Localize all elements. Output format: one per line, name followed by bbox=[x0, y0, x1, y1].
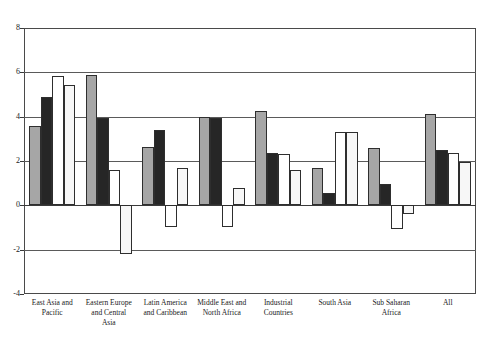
bar bbox=[323, 193, 335, 205]
bar bbox=[233, 188, 245, 206]
bar bbox=[403, 205, 415, 214]
bar bbox=[52, 76, 64, 206]
y-tick-label: 4 bbox=[0, 113, 20, 121]
bar bbox=[436, 150, 448, 205]
y-tick-label: 8 bbox=[0, 24, 20, 32]
bar bbox=[154, 130, 166, 205]
bar bbox=[177, 168, 189, 206]
bar bbox=[109, 170, 121, 205]
bars-layer bbox=[24, 28, 476, 294]
x-axis-category-labels: East Asia andPacificEastern Europeand Ce… bbox=[24, 298, 476, 344]
y-tick-label: 6 bbox=[0, 68, 20, 76]
bar bbox=[29, 126, 41, 206]
bar bbox=[448, 153, 460, 205]
bar bbox=[97, 118, 109, 206]
bar bbox=[222, 205, 234, 227]
y-tick-label: -2 bbox=[0, 246, 20, 254]
bar-group bbox=[307, 28, 364, 294]
x-axis-label: All bbox=[414, 298, 483, 308]
bar bbox=[346, 132, 358, 205]
bar-group bbox=[81, 28, 138, 294]
x-axis-label-line: Countries bbox=[244, 308, 313, 318]
bar bbox=[368, 148, 380, 206]
bar-group bbox=[194, 28, 251, 294]
bar-group bbox=[24, 28, 81, 294]
bar bbox=[459, 162, 471, 205]
bar-chart: 86420-2-4 East Asia andPacificEastern Eu… bbox=[0, 0, 487, 344]
x-axis-label-line: Africa bbox=[357, 308, 426, 318]
bar-group bbox=[363, 28, 420, 294]
bar bbox=[335, 132, 347, 205]
bar bbox=[425, 114, 437, 205]
bar-group bbox=[137, 28, 194, 294]
bar bbox=[290, 170, 302, 205]
y-tick-mark bbox=[20, 294, 24, 295]
bar bbox=[142, 147, 154, 206]
x-axis-label-line: All bbox=[414, 298, 483, 308]
bar bbox=[267, 153, 279, 205]
x-axis-label-line: Asia bbox=[75, 318, 144, 328]
bar bbox=[278, 154, 290, 205]
bar bbox=[64, 85, 76, 206]
bar bbox=[41, 97, 53, 206]
bar bbox=[255, 111, 267, 205]
bar bbox=[86, 75, 98, 206]
bar bbox=[391, 205, 403, 228]
bar bbox=[380, 184, 392, 205]
bar bbox=[199, 117, 211, 206]
bar-group bbox=[420, 28, 477, 294]
y-tick-label: 0 bbox=[0, 201, 20, 209]
bar bbox=[120, 205, 132, 254]
bar bbox=[312, 168, 324, 206]
bar bbox=[210, 118, 222, 206]
bar bbox=[165, 205, 177, 227]
y-tick-label: 2 bbox=[0, 157, 20, 165]
y-tick-label: -4 bbox=[0, 290, 20, 298]
bar-group bbox=[250, 28, 307, 294]
